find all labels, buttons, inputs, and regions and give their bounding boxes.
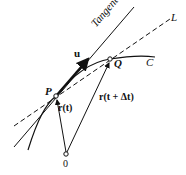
point-Q-label: Q bbox=[114, 58, 122, 69]
r-t-label: r(t) bbox=[58, 103, 72, 113]
origin-label: 0 bbox=[63, 159, 68, 169]
u-label: u bbox=[74, 48, 80, 59]
tangent-vector-diagram: Tangent L C P Q 0 u r(t) r(t + Δt) bbox=[0, 0, 186, 175]
secant-line-L bbox=[14, 19, 170, 126]
point-Q-marker bbox=[108, 57, 112, 61]
diagram-canvas bbox=[0, 0, 186, 175]
line-L-label: L bbox=[171, 12, 177, 23]
origin-marker bbox=[64, 152, 68, 156]
curve-C-label: C bbox=[146, 57, 153, 68]
point-P-marker bbox=[54, 94, 58, 98]
unit-tangent-vector bbox=[56, 59, 88, 96]
point-P-label: P bbox=[45, 86, 52, 97]
r-t-dt-label: r(t + Δt) bbox=[99, 92, 134, 102]
